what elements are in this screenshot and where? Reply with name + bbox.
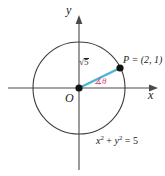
radius-length-label: √5 [79,58,88,67]
coordinate-plane-svg [0,0,165,176]
y-axis-label: y [66,4,71,16]
y-axis [76,15,83,170]
sqrt-symbol-group: √5 [79,58,88,67]
equation-y-exponent: 2 [119,134,122,141]
point-p-label: P = (2, 1) [123,55,162,65]
x-axis-label: x [148,89,153,101]
point-p-dot [116,64,123,71]
math-figure: y x O P = (2, 1) √5 ∡θ x2 + y2 = 5 [0,0,165,176]
equation-x-exponent: 2 [100,134,103,141]
origin-dot [75,84,82,91]
circle-equation-label: x2 + y2 = 5 [96,136,138,146]
sqrt-overbar [84,58,89,59]
equation-rhs: 5 [133,135,138,146]
origin-label: O [65,92,74,104]
angle-theta-label: ∡θ [94,77,106,86]
